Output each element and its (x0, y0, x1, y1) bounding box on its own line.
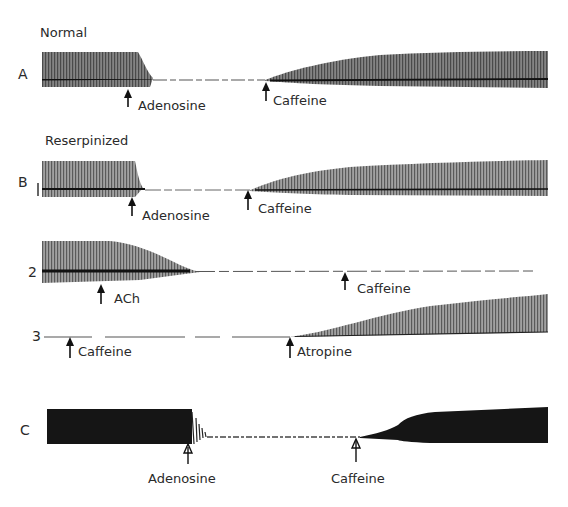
arrow-icon-b3-caffeine (66, 337, 74, 358)
drug-label-c-caffeine: Caffeine (331, 472, 385, 486)
trace-number-3: 3 (32, 329, 41, 343)
arrow-icon-a-adenosine (124, 89, 132, 107)
panel-letter-c: C (20, 423, 30, 437)
drug-label-b3-atropine: Atropine (297, 345, 352, 359)
trace-a (42, 51, 548, 88)
panel-letter-a: A (18, 67, 28, 81)
arrow-icon-b2-caffeine (341, 272, 349, 290)
arrow-icon-b3-atropine (286, 337, 294, 358)
drug-label-b1-caffeine: Caffeine (258, 202, 312, 216)
condition-label-normal: Normal (40, 26, 87, 40)
arrow-icon-b1-caffeine (244, 190, 252, 210)
drug-label-b2-ach: ACh (114, 292, 140, 306)
arrow-icon-c-adenosine (184, 444, 192, 464)
arrow-icon-c-caffeine (352, 439, 360, 462)
panel-letter-b: B (18, 175, 28, 189)
drug-label-b2-caffeine: Caffeine (357, 282, 411, 296)
trace-number-2: 2 (28, 265, 37, 279)
trace-b2 (42, 241, 535, 283)
drug-label-c-adenosine: Adenosine (148, 472, 216, 486)
drug-label-a-adenosine: Adenosine (138, 99, 206, 113)
trace-b1 (38, 160, 548, 197)
arrow-icon-a-caffeine (262, 82, 270, 101)
arrow-icon-b2-ach (97, 284, 105, 304)
arrow-icon-b1-adenosine (128, 197, 136, 216)
trace-c (47, 407, 548, 444)
kymograph-tracings (0, 0, 568, 507)
drug-label-b3-caffeine: Caffeine (78, 345, 132, 359)
drug-label-a-caffeine: Caffeine (273, 94, 327, 108)
drug-label-b1-adenosine: Adenosine (142, 209, 210, 223)
condition-label-reserpinized: Reserpinized (45, 134, 128, 148)
